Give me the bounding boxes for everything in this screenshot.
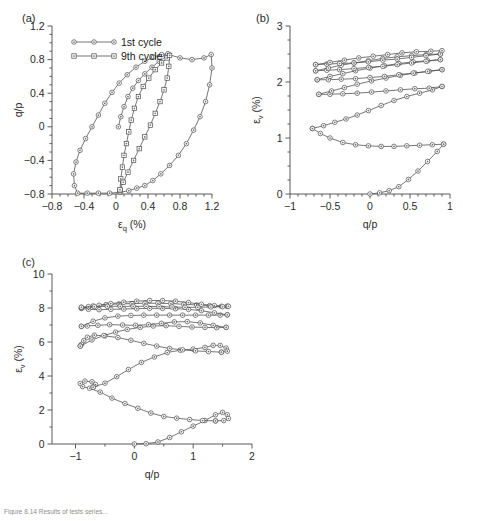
marker-center-dot (385, 90, 387, 92)
marker-center-dot (175, 308, 177, 310)
marker-center-dot (113, 41, 115, 43)
marker-center-dot (123, 308, 125, 310)
marker-center-dot (384, 76, 386, 78)
marker-center-dot (331, 90, 333, 92)
marker-center-dot (382, 65, 384, 67)
marker-center-dot (176, 417, 178, 419)
marker-center-dot (133, 160, 135, 162)
marker-center-dot (440, 59, 442, 61)
marker-center-dot (182, 349, 184, 351)
marker-center-dot (94, 306, 96, 308)
marker-center-dot (440, 53, 442, 55)
marker-center-dot (417, 170, 419, 172)
marker-center-dot (120, 116, 122, 118)
marker-center-dot (161, 322, 163, 324)
x-tick-label: −0.4 (74, 200, 95, 212)
marker-center-dot (342, 93, 344, 95)
marker-center-dot (111, 92, 113, 94)
marker-center-dot (215, 414, 217, 416)
y-tick-label: 0 (39, 438, 45, 450)
marker-center-dot (199, 116, 201, 118)
marker-center-dot (139, 327, 141, 329)
marker-center-dot (419, 92, 421, 94)
marker-center-dot (159, 101, 161, 103)
marker-center-dot (75, 161, 77, 163)
marker-center-dot (191, 326, 193, 328)
marker-center-dot (104, 102, 106, 104)
marker-center-dot (85, 138, 87, 140)
data-series (317, 84, 445, 96)
marker-center-dot (358, 57, 360, 59)
data-series-group (78, 298, 231, 446)
x-tick-label: 0 (367, 200, 373, 212)
marker-center-dot (156, 345, 158, 347)
marker-center-dot (162, 300, 164, 302)
marker-center-dot (222, 306, 224, 308)
data-series (368, 142, 446, 196)
marker-center-dot (158, 306, 160, 308)
marker-center-dot (428, 87, 430, 89)
marker-center-dot (154, 356, 156, 358)
marker-center-dot (432, 89, 434, 91)
marker-center-dot (178, 155, 180, 157)
marker-center-dot (171, 306, 173, 308)
marker-center-dot (162, 307, 164, 309)
marker-center-dot (93, 55, 95, 57)
marker-center-dot (91, 126, 93, 128)
marker-center-dot (408, 179, 410, 181)
marker-center-dot (161, 62, 163, 64)
marker-center-dot (111, 397, 113, 399)
series-line (319, 86, 442, 94)
marker-center-dot (398, 186, 400, 188)
marker-center-dot (165, 325, 167, 327)
marker-center-dot (215, 420, 217, 422)
marker-center-dot (157, 441, 159, 443)
marker-center-dot (226, 350, 228, 352)
y-tick-label: 0.4 (30, 87, 45, 99)
x-tick-label: −1 (70, 450, 82, 462)
marker-center-dot (228, 305, 230, 307)
marker-center-dot (369, 77, 371, 79)
marker-center-dot (126, 143, 128, 145)
marker-center-dot (436, 151, 438, 153)
marker-center-dot (117, 337, 119, 339)
marker-center-dot (142, 86, 144, 88)
marker-center-dot (406, 145, 408, 147)
marker-center-dot (122, 181, 124, 183)
marker-center-dot (130, 119, 132, 121)
marker-center-dot (344, 87, 346, 89)
marker-center-dot (93, 41, 95, 43)
marker-center-dot (226, 414, 228, 416)
marker-center-dot (179, 57, 181, 59)
marker-center-dot (412, 72, 414, 74)
x-tick-label: 0.4 (141, 200, 156, 212)
marker-center-dot (97, 324, 99, 326)
marker-center-dot (186, 321, 188, 323)
marker-center-dot (157, 302, 159, 304)
series-line (319, 70, 442, 95)
marker-center-dot (228, 418, 230, 420)
marker-center-dot (109, 324, 111, 326)
marker-center-dot (344, 59, 346, 61)
marker-center-dot (117, 315, 119, 317)
marker-center-dot (380, 146, 382, 148)
marker-center-dot (99, 391, 101, 393)
marker-center-dot (150, 124, 152, 126)
y-tick-label: 6 (39, 336, 45, 348)
marker-center-dot (398, 74, 400, 76)
marker-center-dot (138, 148, 140, 150)
x-tick-label: 0 (131, 450, 137, 462)
marker-center-dot (123, 301, 125, 303)
marker-center-dot (406, 96, 408, 98)
marker-center-dot (219, 345, 221, 347)
marker-center-dot (122, 324, 124, 326)
marker-center-dot (195, 314, 197, 316)
x-ticks: −1012 (70, 444, 256, 462)
marker-center-dot (387, 54, 389, 56)
marker-center-dot (329, 93, 331, 95)
marker-center-dot (104, 317, 106, 319)
marker-center-dot (208, 351, 210, 353)
y-axis-label: q/p (12, 103, 24, 118)
marker-center-dot (186, 143, 188, 145)
marker-center-dot (126, 329, 128, 331)
